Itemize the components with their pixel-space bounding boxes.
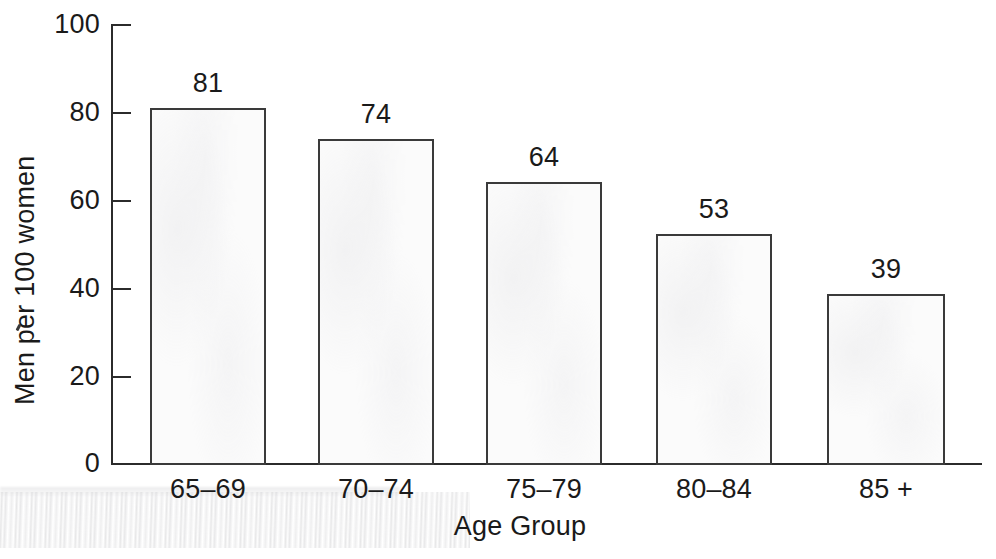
bar-texture [488, 184, 600, 463]
y-tick-label-20: 20 [0, 363, 100, 390]
y-tick-label-60: 60 [0, 187, 100, 214]
y-tick-label-80: 80 [0, 99, 100, 126]
bar-value-80-84: 53 [654, 194, 774, 225]
y-tick-label-100: 100 [0, 11, 100, 38]
y-tick-mark-60 [111, 200, 131, 202]
bar-65-69 [150, 108, 266, 465]
bar-75-79 [486, 182, 602, 465]
x-tick-label-80-84: 80–84 [644, 474, 784, 505]
x-tick-label-65-69: 65–69 [138, 474, 278, 505]
bar-70-74 [318, 139, 434, 465]
bar-texture [152, 110, 264, 463]
x-tick-label-85-plus: 85 + [816, 474, 956, 505]
y-tick-mark-100 [111, 24, 131, 26]
x-tick-label-75-79: 75–79 [474, 474, 614, 505]
y-axis-line [111, 24, 113, 465]
y-tick-mark-80 [111, 112, 131, 114]
bar-85-plus [827, 294, 945, 465]
bar-value-75-79: 64 [484, 142, 604, 173]
y-tick-mark-40 [111, 288, 131, 290]
y-tick-label-40: 40 [0, 275, 100, 302]
bar-80-84 [656, 234, 772, 465]
bar-texture [320, 141, 432, 463]
x-axis-title: Age Group [420, 511, 620, 542]
bar-chart: Men per 100 women 100 80 60 40 20 0 81 7… [0, 0, 996, 559]
y-tick-label-0: 0 [0, 450, 100, 477]
x-tick-label-70-74: 70–74 [306, 474, 446, 505]
y-tick-mark-20 [111, 376, 131, 378]
bar-value-65-69: 81 [148, 68, 268, 99]
bar-texture [658, 236, 770, 463]
bar-texture [829, 296, 943, 463]
bar-value-85-plus: 39 [826, 254, 946, 285]
bar-value-70-74: 74 [316, 99, 436, 130]
